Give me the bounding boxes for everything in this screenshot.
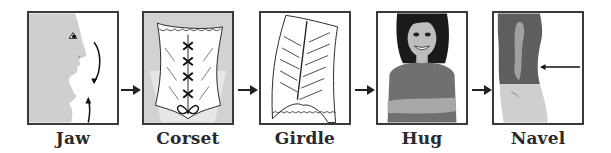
- right-arrow-icon: [238, 84, 258, 96]
- step-label-hug: Hug: [367, 128, 477, 148]
- panel-corset: [142, 11, 234, 125]
- jaw-profile-icon: [29, 13, 117, 123]
- torso-navel-icon: [494, 13, 582, 123]
- right-arrow-icon: [472, 84, 492, 96]
- panel-navel: [492, 11, 584, 125]
- right-arrow-icon: [355, 84, 375, 96]
- step-label-girdle: Girdle: [250, 128, 360, 148]
- step-label-navel: Navel: [483, 128, 593, 148]
- woman-crossed-arms-icon: [378, 13, 466, 123]
- panel-jaw: [27, 11, 119, 125]
- corset-icon: [144, 13, 232, 123]
- girdle-icon: [261, 13, 349, 123]
- step-label-corset: Corset: [133, 128, 243, 148]
- step-label-jaw: Jaw: [18, 128, 128, 148]
- panel-hug: [376, 11, 468, 125]
- panel-girdle: [259, 11, 351, 125]
- right-arrow-icon: [121, 84, 141, 96]
